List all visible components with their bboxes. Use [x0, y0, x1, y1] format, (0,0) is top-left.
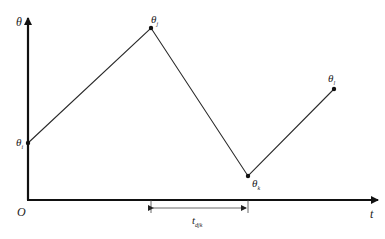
theta-path [28, 28, 334, 176]
point-theta-k [246, 174, 250, 178]
label-theta-j: θj [151, 14, 158, 27]
y-axis-label: θ [16, 16, 22, 28]
label-interval: tdjk [192, 215, 202, 228]
label-theta-l: θl [328, 73, 335, 86]
diagram-canvas [0, 0, 385, 239]
label-theta-k: θk [252, 178, 260, 191]
point-theta-l [332, 87, 336, 91]
origin-label: O [17, 206, 26, 218]
point-theta-i [26, 141, 30, 145]
x-axis-label: t [370, 208, 373, 220]
label-theta-i: θi [16, 137, 23, 150]
